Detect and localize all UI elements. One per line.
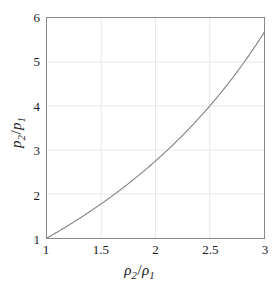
y-axis-numerator-subscript: 2: [15, 135, 27, 140]
y-tick-label-1: 1: [26, 233, 40, 246]
y-axis-denominator-subscript: 1: [15, 117, 27, 122]
y-axis-slash: /: [8, 129, 24, 134]
x-tick-label-2: 2: [152, 243, 159, 256]
x-tick-label-1: 1: [43, 243, 50, 256]
y-tick-label-5: 5: [26, 55, 40, 68]
y-axis-symbol-2: p: [8, 122, 24, 130]
y-tick-label-4: 4: [26, 99, 40, 112]
y-axis-symbol: p: [8, 140, 24, 148]
x-axis-denominator-subscript: 1: [149, 269, 154, 281]
plot-canvas: [47, 18, 264, 238]
x-tick-label-3: 3: [262, 243, 269, 256]
y-tick-label-6: 6: [26, 11, 40, 24]
x-tick-label-1-5: 1.5: [93, 243, 109, 256]
x-tick-label-2-5: 2.5: [202, 243, 218, 256]
x-axis-symbol: ρ: [124, 262, 131, 278]
y-tick-label-2: 2: [26, 188, 40, 201]
y-tick-label-3: 3: [26, 144, 40, 157]
x-axis-title: ρ2/ρ1: [0, 262, 279, 281]
grid-lines: [47, 18, 264, 238]
plot-area: [46, 17, 265, 239]
y-axis-title: p2/p1: [8, 104, 26, 160]
chart-figure: p2/p1 6 5 4 3 2 1 1 1.5 2 2.5 3: [0, 0, 279, 289]
